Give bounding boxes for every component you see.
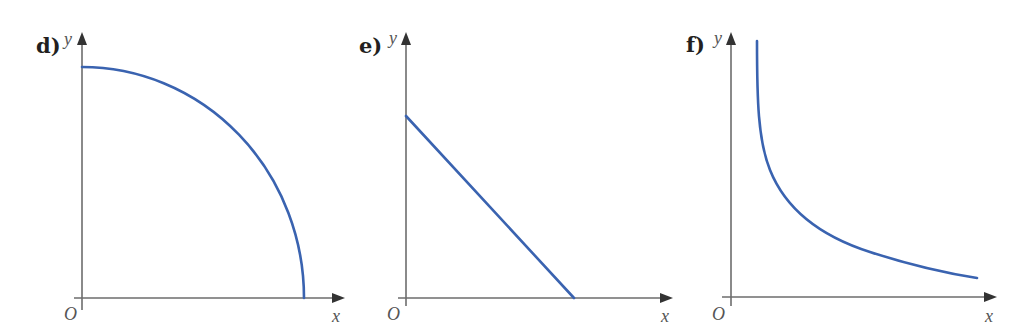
x-axis-arrow-icon bbox=[660, 293, 673, 303]
panel-label-e: e) bbox=[359, 33, 382, 58]
curve-linear bbox=[406, 116, 574, 298]
y-axis-label-d: y bbox=[62, 29, 72, 49]
panel-f: f) y O x bbox=[686, 28, 997, 326]
x-axis-label-e: x bbox=[660, 306, 669, 326]
panel-label-d: d) bbox=[36, 33, 61, 58]
y-axis-arrow-icon bbox=[77, 32, 87, 45]
y-axis-label-e: y bbox=[387, 28, 397, 48]
x-axis-label-f: x bbox=[984, 306, 993, 326]
curve-quarter-circle bbox=[82, 67, 304, 298]
x-axis-label-d: x bbox=[331, 306, 340, 326]
origin-label-d: O bbox=[64, 304, 77, 324]
x-axis-arrow-icon bbox=[984, 292, 997, 302]
origin-label-f: O bbox=[712, 304, 725, 324]
panel-label-f: f) bbox=[686, 32, 705, 57]
panel-e: e) y O x bbox=[359, 28, 673, 326]
y-axis-arrow-icon bbox=[726, 32, 736, 45]
origin-label-e: O bbox=[387, 304, 400, 324]
panel-d: d) y O x bbox=[36, 29, 345, 326]
y-axis-label-f: y bbox=[712, 28, 722, 48]
y-axis-arrow-icon bbox=[401, 32, 411, 45]
figure-canvas: d) y O x e) y O x f) y O x bbox=[0, 0, 1026, 336]
curve-reciprocal bbox=[757, 41, 977, 278]
x-axis-arrow-icon bbox=[332, 293, 345, 303]
